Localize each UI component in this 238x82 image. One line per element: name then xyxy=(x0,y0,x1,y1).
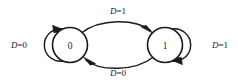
self-loop-0-label: D=0 xyxy=(10,40,28,50)
state-diagram-container: 0 1 D=1 D=0 D=0 D=1 xyxy=(0,0,238,82)
state-0-label: 0 xyxy=(68,41,73,51)
transition-1-to-0-value: 0 xyxy=(122,68,127,78)
transition-0-to-1-path xyxy=(82,22,151,33)
transition-0-to-1-label: D=1 xyxy=(109,6,126,16)
transition-0-to-1-arrowhead xyxy=(141,25,153,33)
self-loop-0-value: 0 xyxy=(23,40,28,50)
state-diagram-canvas: 0 1 D=1 D=0 D=0 D=1 xyxy=(0,0,238,82)
transition-1-to-0-label: D=0 xyxy=(109,68,127,78)
state-1-label: 1 xyxy=(163,41,168,51)
transition-1-to-0-arrowhead xyxy=(83,57,95,65)
self-loop-1-label: D=1 xyxy=(211,40,228,50)
transition-0-to-1-value: 1 xyxy=(122,6,127,16)
state-node-0[interactable]: 0 xyxy=(53,28,88,63)
transition-0-to-1-edge xyxy=(82,22,154,34)
self-loop-1-value: 1 xyxy=(224,40,229,50)
state-node-1[interactable]: 1 xyxy=(148,28,183,63)
